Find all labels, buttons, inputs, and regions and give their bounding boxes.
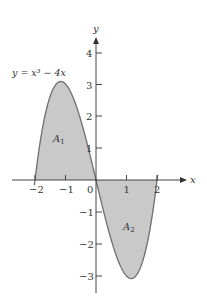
x-tick-0: 0	[87, 184, 93, 195]
x-tick-neg2: −2	[29, 184, 44, 195]
y-tick-4: 4	[86, 48, 92, 59]
x-tick-1: 1	[124, 184, 130, 195]
equation-label: y = x³ − 4x	[11, 67, 67, 78]
y-tick-neg1: −1	[79, 207, 94, 218]
x-axis-label: x	[190, 174, 196, 185]
y-axis-label: y	[92, 23, 99, 34]
y-tick-neg3: −3	[79, 271, 94, 282]
x-tick-2: 2	[154, 184, 160, 195]
area-diagram: x −2 −1 0 1 2 y 1 2 3 4 −1 −2 −3 y = x³ …	[0, 0, 207, 303]
x-tick-neg1: −1	[59, 184, 74, 195]
y-axis-arrow-icon	[93, 37, 99, 44]
x-axis-arrow-icon	[180, 177, 187, 183]
region-a1	[35, 81, 96, 180]
y-tick-2: 2	[86, 111, 92, 122]
y-tick-1: 1	[86, 143, 92, 154]
y-tick-3: 3	[86, 80, 92, 91]
y-tick-neg2: −2	[79, 239, 94, 250]
